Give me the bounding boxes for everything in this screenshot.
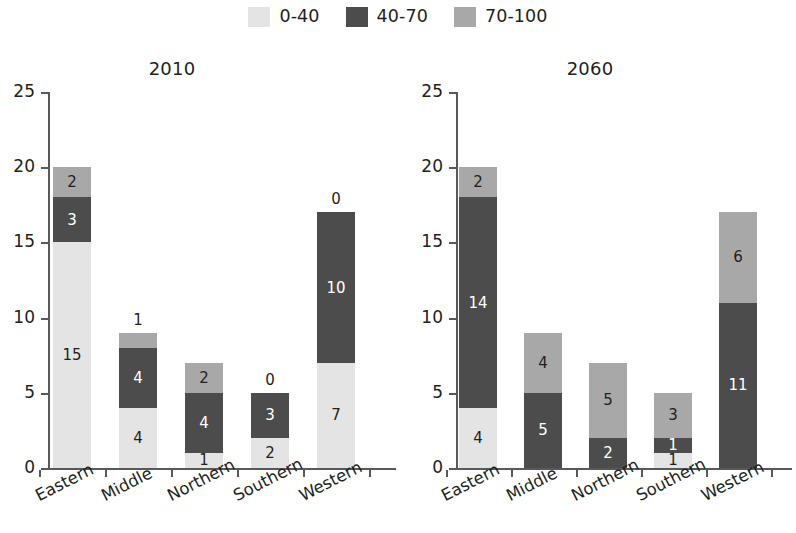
bar-segment-value-label: 2 [589, 446, 627, 461]
bar-segment-value-label: 2 [53, 175, 91, 190]
x-axis-tick [511, 470, 513, 477]
bar-eastern: 1532 [53, 167, 91, 468]
bar-top-value-label: 0 [251, 373, 289, 388]
legend-item-70-100: 70-100 [454, 7, 548, 27]
x-axis-category-label: Middle [99, 465, 155, 504]
x-axis-tick [303, 470, 305, 477]
plot-area-2010: 05101520251532Eastern144Middle142Norther… [0, 48, 400, 533]
legend-item-0-40: 0-40 [248, 7, 319, 27]
bar-eastern: 4142 [459, 167, 497, 468]
y-axis-tick-label: 20 [409, 158, 443, 175]
bar-southern: 23 [251, 393, 289, 468]
bar-top-value-label: 0 [317, 192, 355, 207]
bar-top-value-label: 1 [119, 313, 157, 328]
bar-segment-value-label: 11 [719, 378, 757, 393]
bar-segment-value-label: 4 [185, 416, 223, 431]
bar-segment-value-label: 4 [119, 431, 157, 446]
chart-panel-2060: 2060 05101520254142Eastern054Middle025No… [400, 48, 796, 533]
bar-segment-70-100 [119, 333, 157, 348]
x-axis-tick [706, 470, 708, 477]
bar-middle: 44 [119, 333, 157, 468]
legend-item-40-70: 40-70 [346, 7, 428, 27]
bar-segment-value-label: 6 [719, 250, 757, 265]
x-axis-tick [771, 470, 773, 477]
y-axis-tick [449, 468, 456, 470]
y-axis-tick-label: 10 [1, 309, 35, 326]
x-axis-tick [39, 470, 41, 477]
x-axis-tick [105, 470, 107, 477]
y-axis-tick-label: 0 [409, 459, 443, 476]
y-axis-tick [449, 92, 456, 94]
bar-northern: 25 [589, 363, 627, 468]
bar-segment-value-label: 1 [654, 438, 692, 453]
y-axis-tick [449, 242, 456, 244]
x-axis-tick [641, 470, 643, 477]
x-axis-tick [171, 470, 173, 477]
bar-segment-value-label: 10 [317, 281, 355, 296]
bar-segment-value-label: 2 [251, 446, 289, 461]
bar-segment-value-label: 4 [459, 431, 497, 446]
bar-middle: 54 [524, 333, 562, 468]
legend-swatch-icon [346, 7, 368, 27]
bar-segment-value-label: 4 [119, 371, 157, 386]
legend-label: 40-70 [377, 8, 428, 26]
legend-label: 0-40 [279, 8, 319, 26]
y-axis-tick-label: 0 [1, 459, 35, 476]
bar-southern: 113 [654, 393, 692, 468]
y-axis-tick-label: 5 [1, 384, 35, 401]
bar-segment-value-label: 2 [459, 175, 497, 190]
y-axis-line [456, 92, 458, 470]
y-axis-tick [41, 92, 48, 94]
bar-segment-value-label: 3 [251, 408, 289, 423]
y-axis-tick-label: 15 [409, 233, 443, 250]
bar-segment-value-label: 7 [317, 408, 355, 423]
legend-swatch-icon [454, 7, 476, 27]
y-axis-tick-label: 20 [1, 158, 35, 175]
legend-label: 70-100 [485, 8, 548, 26]
chart-figure: 0-4040-7070-100 2010 05101520251532Easte… [0, 0, 796, 533]
y-axis-line [48, 92, 50, 470]
y-axis-tick [449, 167, 456, 169]
y-axis-tick-label: 10 [409, 309, 443, 326]
bar-segment-value-label: 5 [524, 423, 562, 438]
y-axis-tick [41, 167, 48, 169]
x-axis-tick [369, 470, 371, 477]
y-axis-tick [41, 242, 48, 244]
bar-segment-value-label: 3 [654, 408, 692, 423]
legend-swatch-icon [248, 7, 270, 27]
bar-segment-value-label: 5 [589, 393, 627, 408]
bar-western: 116 [719, 212, 757, 468]
y-axis-tick [449, 318, 456, 320]
bar-segment-value-label: 15 [53, 348, 91, 363]
y-axis-tick [41, 468, 48, 470]
y-axis-tick [449, 393, 456, 395]
bar-segment-value-label: 14 [459, 296, 497, 311]
bar-northern: 142 [185, 363, 223, 468]
chart-legend: 0-4040-7070-100 [0, 4, 796, 30]
y-axis-tick-label: 15 [1, 233, 35, 250]
chart-panel-2010: 2010 05101520251532Eastern144Middle142No… [0, 48, 400, 533]
bar-segment-value-label: 4 [524, 356, 562, 371]
bar-segment-value-label: 2 [185, 371, 223, 386]
y-axis-tick [41, 318, 48, 320]
y-axis-tick-label: 5 [409, 384, 443, 401]
plot-area-2060: 05101520254142Eastern054Middle025Norther… [400, 48, 796, 533]
x-axis-tick [237, 470, 239, 477]
x-axis-tick [446, 470, 448, 477]
bar-western: 710 [317, 212, 355, 468]
y-axis-tick-label: 25 [1, 83, 35, 100]
x-axis-tick [576, 470, 578, 477]
bar-segment-value-label: 3 [53, 213, 91, 228]
y-axis-tick-label: 25 [409, 83, 443, 100]
y-axis-tick [41, 393, 48, 395]
